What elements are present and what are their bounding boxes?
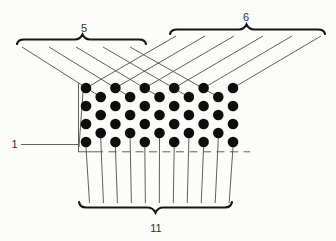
label-ref-1: 1 [11, 138, 17, 150]
label-group-6: 6 [243, 11, 249, 23]
brace-bottom [79, 202, 232, 213]
dot-array [81, 83, 239, 148]
patent-figure: 5 6 1 11 [0, 0, 336, 241]
brace-top-left [17, 35, 146, 45]
label-group-11: 11 [150, 222, 161, 234]
brace-top-right [170, 25, 325, 35]
output-lines-bottom [86, 138, 233, 203]
figure-canvas: 5 6 1 11 [0, 0, 336, 241]
fan-lines-top-right [86, 36, 321, 88]
label-group-5: 5 [81, 22, 87, 34]
